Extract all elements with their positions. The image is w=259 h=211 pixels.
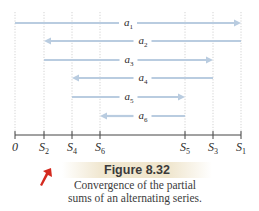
figure-number-label: Figure 8.32: [62, 162, 212, 178]
tick-label-s4: S4: [67, 140, 77, 156]
figure-caption: Convergence of the partial sums of an al…: [40, 179, 230, 205]
arrowhead-icon: [206, 57, 213, 64]
tick-label-zero: 0: [12, 140, 18, 154]
partial-sum-arrows: a1a2a3a4a5a6: [15, 16, 241, 124]
arrowhead-icon: [100, 113, 107, 120]
arrowhead-icon: [234, 20, 241, 27]
arrowhead-icon: [44, 38, 51, 45]
caption-line-1: Convergence of the partial: [40, 179, 230, 192]
arrow-label-a3: a3: [125, 53, 135, 68]
alternating-series-diagram: a1a2a3a4a5a6 0S2S4S6S5S3S1: [0, 0, 259, 160]
tick-label-s5: S5: [180, 140, 190, 156]
tick-label-s3: S3: [208, 140, 218, 156]
caption-line-2: sums of an alternating series.: [40, 192, 230, 205]
arrow-label-a1: a1: [124, 16, 134, 31]
red-arrow-pointer-icon: [38, 167, 54, 187]
arrow-label-a6: a6: [139, 109, 149, 124]
tick-label-s6: S6: [95, 140, 105, 156]
arrow-a3: a3: [44, 53, 213, 68]
arrow-a4: a4: [72, 71, 213, 86]
arrow-label-a2: a2: [139, 34, 149, 49]
arrow-label-a5: a5: [125, 90, 135, 105]
arrow-a5: a5: [72, 90, 185, 105]
tick-label-s1: S1: [236, 140, 246, 156]
tick-label-s2: S2: [39, 140, 49, 156]
number-line-axis: 0S2S4S6S5S3S1: [12, 131, 246, 156]
arrowhead-icon: [178, 94, 185, 101]
arrow-label-a4: a4: [139, 71, 149, 86]
arrow-a2: a2: [44, 34, 241, 49]
arrow-a6: a6: [100, 109, 185, 124]
arrow-a1: a1: [15, 16, 241, 31]
arrowhead-icon: [72, 75, 79, 82]
